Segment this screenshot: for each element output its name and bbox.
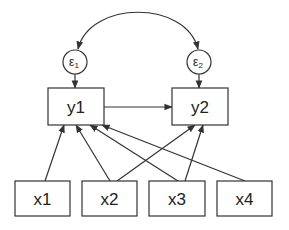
svg-text:x4: x4 <box>236 190 254 209</box>
svg-text:x2: x2 <box>101 190 119 209</box>
svg-text:y2: y2 <box>191 98 209 117</box>
arrow-x4-y1 <box>102 125 245 181</box>
node-x4: x4 <box>217 181 272 216</box>
arrow-x1-y1 <box>45 125 64 181</box>
arrow-x3-y1 <box>90 125 178 181</box>
error-node-e1: ε1 <box>63 50 87 74</box>
svg-text:x3: x3 <box>168 190 186 209</box>
node-x1: x1 <box>15 181 70 216</box>
covariance-arrow-e1-e2 <box>78 12 198 49</box>
arrow-x2-y2 <box>117 125 195 181</box>
arrow-x3-y2 <box>185 125 203 181</box>
node-x2: x2 <box>82 181 137 216</box>
error-node-e2: ε2 <box>187 50 211 74</box>
node-y2: y2 <box>172 88 228 125</box>
svg-text:y1: y1 <box>67 98 85 117</box>
svg-text:x1: x1 <box>34 190 52 209</box>
arrow-x2-y1 <box>76 125 110 181</box>
node-x3: x3 <box>149 181 205 216</box>
node-y1: y1 <box>48 88 104 125</box>
path-diagram: ε1 ε2 y1 y2 x1 x2 x3 x4 <box>0 0 289 230</box>
